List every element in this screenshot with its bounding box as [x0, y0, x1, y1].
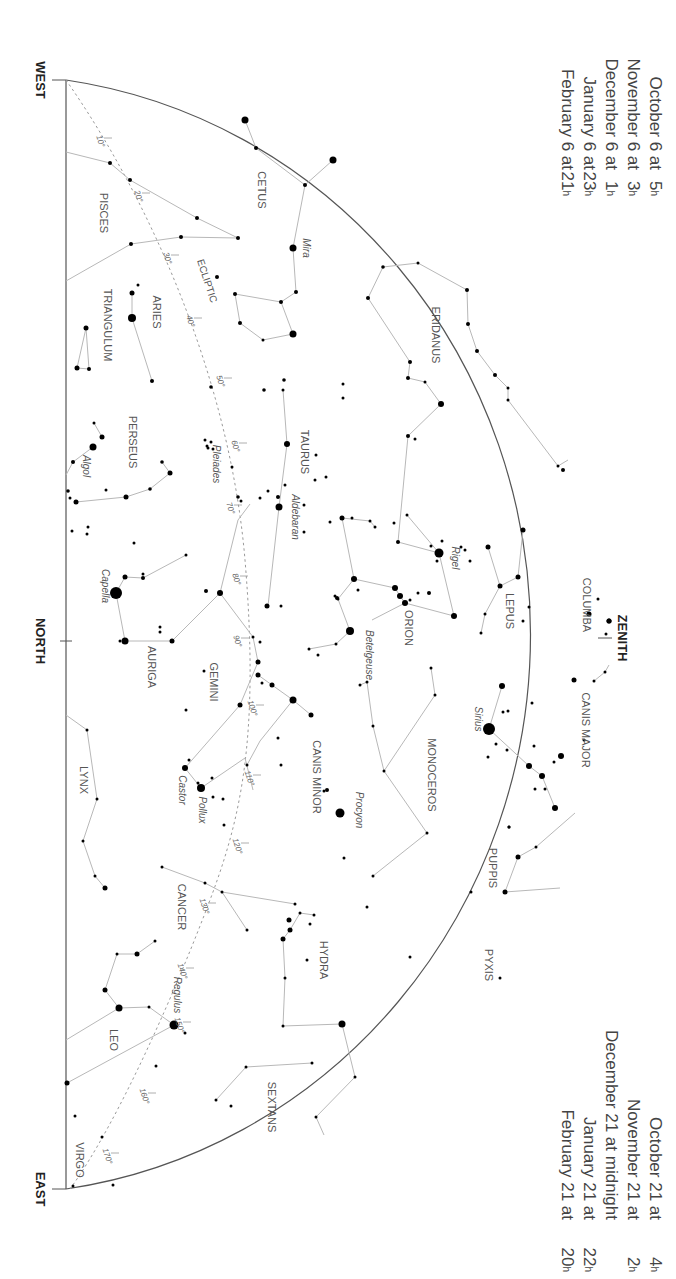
star-dot: [417, 592, 420, 595]
constellation-line: [309, 579, 354, 649]
constellation-label: CANIS MAJOR: [580, 692, 592, 767]
star-dot: [290, 245, 297, 252]
star-dot: [155, 1065, 158, 1068]
constellation-label: TRIANGULUM: [102, 289, 114, 362]
star-dot: [86, 729, 89, 732]
ecliptic-tick: 160°: [138, 1087, 156, 1106]
time-hour-value: 23h: [578, 170, 600, 196]
star-dot: [303, 183, 307, 187]
star-dot: [94, 875, 97, 878]
constellation-label: PERSEUS: [127, 416, 139, 469]
star-dot: [464, 549, 467, 552]
star-dot: [96, 798, 99, 801]
ecliptic-tick-label: 30°: [161, 251, 174, 266]
star-dot: [315, 1116, 318, 1119]
constellation-lines: [66, 120, 609, 1135]
constellation-line: [481, 586, 500, 633]
constellation-line: [279, 444, 287, 507]
star-dot: [313, 914, 316, 917]
star-dot: [604, 671, 607, 674]
time-hour-value: 5h: [644, 170, 666, 196]
star-dot: [101, 1136, 104, 1139]
constellation-line: [258, 675, 311, 715]
star-dot: [123, 575, 128, 580]
star-dot: [204, 439, 207, 442]
star-dot: [290, 697, 297, 704]
star-dot: [66, 489, 70, 493]
constellation-line: [372, 603, 405, 620]
constellation-label: LYNX: [78, 766, 90, 795]
ecliptic-tick-label: 110°: [243, 769, 257, 788]
star-dot: [204, 882, 207, 885]
star-dot: [159, 631, 162, 634]
constellation-line: [185, 662, 258, 788]
star-dot: [534, 788, 537, 791]
star-dot: [427, 591, 431, 595]
star-dot: [469, 560, 472, 563]
star-dot: [86, 533, 89, 536]
star-dot: [533, 745, 536, 748]
times-table-top: October 6 at5hNovember 6 at3hDecember 6 …: [556, 20, 666, 196]
star-dot: [434, 694, 437, 697]
star-name-label: Rigel: [450, 547, 461, 571]
star-dot: [430, 545, 433, 548]
star-dot: [74, 1115, 77, 1118]
ecliptic-tick-label: 20°: [132, 188, 145, 204]
star-name-label: Regulus: [172, 977, 183, 1014]
star-dot: [503, 890, 508, 895]
constellation-label: MONOCEROS: [426, 738, 438, 811]
ecliptic-tick: 70°: [224, 501, 242, 516]
star-dot: [210, 441, 213, 444]
star-dot: [245, 1066, 248, 1069]
time-row: December 6 at1h: [600, 20, 622, 196]
star-dot: [276, 504, 283, 511]
star-dot: [135, 952, 140, 957]
constellation-label: TAURUS: [299, 430, 311, 474]
ecliptic-tick: 90°: [231, 634, 249, 649]
constellation-line: [342, 515, 454, 616]
star-name-label: Procyon: [354, 792, 365, 829]
constellation-line: [268, 507, 279, 606]
star-dot: [303, 504, 306, 507]
star-dot: [522, 620, 525, 623]
star-dot: [195, 216, 199, 220]
star-dot: [558, 753, 564, 759]
star-dot: [276, 495, 280, 499]
star-dot: [252, 636, 255, 639]
star-dot: [240, 500, 243, 503]
constellation-label: CETUS: [256, 171, 268, 208]
star-dot: [342, 383, 345, 386]
ecliptic-tick: 40°: [184, 314, 202, 329]
constellation-line: [283, 913, 314, 939]
star-dot: [351, 517, 354, 520]
star-dot: [128, 178, 132, 182]
constellation-label: ARIES: [151, 295, 163, 328]
constellation-line: [281, 185, 305, 334]
star-dot: [179, 235, 183, 239]
star-dot: [294, 290, 298, 294]
ecliptic-tick-label: 60°: [229, 439, 242, 454]
constellation-label: ERIDANUS: [430, 307, 442, 364]
star-dot: [393, 522, 396, 525]
star-dot: [369, 520, 372, 523]
star-dot: [105, 489, 108, 492]
star-dot: [168, 471, 173, 476]
constellation-line: [216, 1067, 246, 1100]
star-dot: [72, 1185, 75, 1188]
time-hour-value: 2h: [622, 1220, 644, 1272]
star-dot: [516, 575, 521, 580]
star-dot: [65, 1081, 70, 1086]
star-dot: [381, 265, 385, 269]
star-dot: [552, 805, 558, 811]
ecliptic-line: [66, 80, 250, 1189]
star-dot: [357, 589, 360, 592]
constellation-line: [66, 152, 238, 238]
constellation-label: GEMINI: [208, 662, 220, 701]
star-dot: [279, 300, 283, 304]
star-dot: [148, 1006, 151, 1009]
star-dot: [436, 560, 439, 563]
star-dot: [188, 759, 191, 762]
star-dot: [215, 275, 219, 279]
star-dot: [475, 349, 479, 353]
star-dot: [372, 725, 375, 728]
